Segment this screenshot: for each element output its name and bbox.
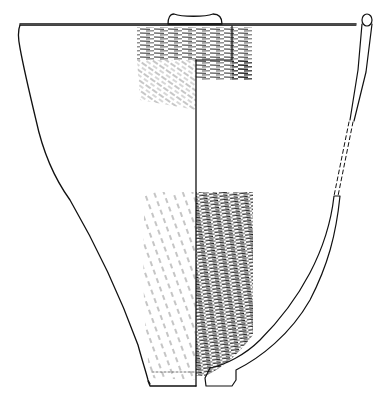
lug-handle	[168, 14, 222, 24]
upper-surface-texture	[137, 26, 252, 110]
pottery-drawing	[0, 0, 384, 405]
base-line	[148, 381, 196, 386]
vessel-svg	[0, 0, 384, 405]
left-profile	[19, 25, 151, 384]
lower-surface-texture	[143, 192, 253, 380]
